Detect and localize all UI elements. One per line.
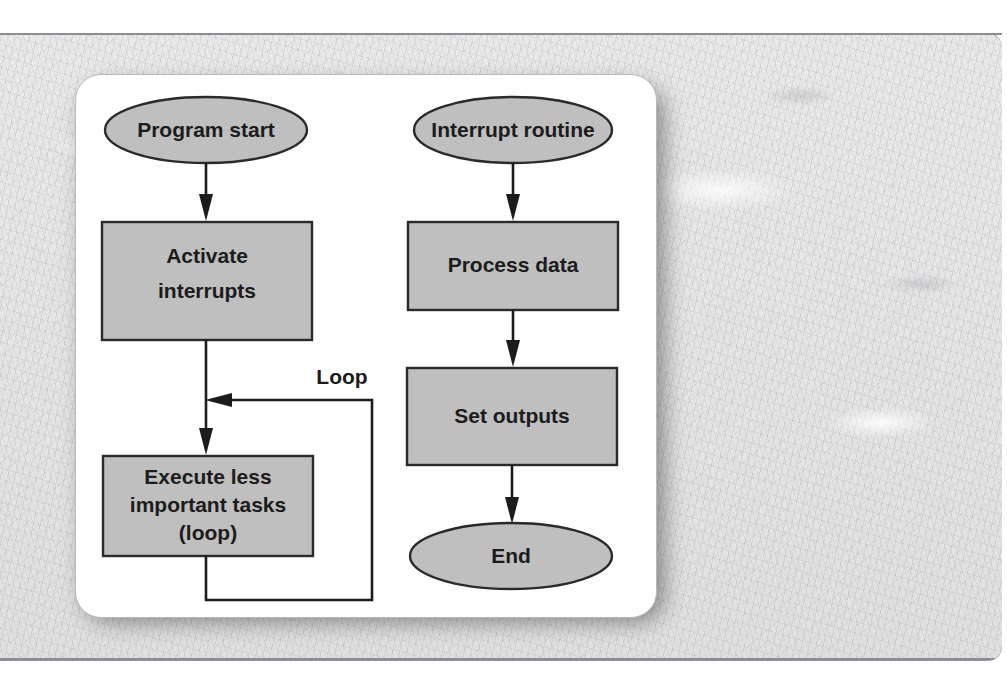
edge-process-to-outputs-arrowhead [506,340,520,367]
flowchart: Program start Activate interrupts Execut… [0,0,1007,677]
node-activate-interrupts: Activate interrupts [102,222,312,340]
edge-start-to-activate-arrowhead [199,194,213,221]
execute-tasks-label-line2: important tasks [130,493,286,516]
node-interrupt-routine: Interrupt routine [414,97,612,163]
edge-activate-to-execute [199,340,213,455]
edge-routine-to-process-arrowhead [506,194,520,221]
execute-tasks-label-line1: Execute less [144,465,271,488]
activate-interrupts-label-line2: interrupts [158,279,256,302]
diagram-page: Program start Activate interrupts Execut… [0,0,1007,677]
program-start-label: Program start [137,118,275,141]
end-label: End [491,544,531,567]
node-end: End [410,523,612,589]
process-data-label: Process data [448,253,579,276]
edge-execute-loop-back-arrowhead [205,393,232,407]
edge-start-to-activate [199,163,213,221]
edge-routine-to-process [506,163,520,221]
edge-process-to-outputs [506,310,520,367]
execute-tasks-label-line3: (loop) [179,521,237,544]
activate-interrupts-label-line1: Activate [166,244,248,267]
edge-activate-to-execute-arrowhead [199,428,213,455]
set-outputs-label: Set outputs [454,404,570,427]
node-set-outputs: Set outputs [407,368,617,465]
loop-label: Loop [316,365,367,388]
edge-outputs-to-end [505,465,519,524]
node-process-data: Process data [408,222,618,310]
node-execute-tasks: Execute less important tasks (loop) [103,456,313,556]
node-program-start: Program start [105,97,307,163]
edge-outputs-to-end-arrowhead [505,497,519,524]
interrupt-routine-label: Interrupt routine [431,118,594,141]
